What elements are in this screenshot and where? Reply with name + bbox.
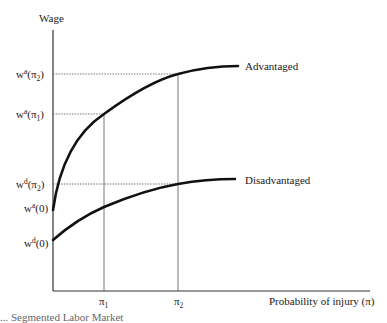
- y-tick-wa-0: wa(0): [24, 201, 48, 215]
- x-tick-pi1: π1: [99, 295, 109, 310]
- y-tick-wa-pi1: wa(π1): [16, 107, 44, 123]
- advantaged-curve: [53, 66, 238, 210]
- y-tick-wd-0: wd(0): [24, 236, 49, 250]
- y-tick-wd-pi2: wd(π2): [16, 177, 45, 193]
- advantaged-label: Advantaged: [245, 60, 299, 72]
- y-tick-wa-pi2: wa(π2): [16, 67, 44, 83]
- disadvantaged-curve: [53, 179, 235, 240]
- guide-lines: [53, 74, 178, 184]
- disadvantaged-label: Disadvantaged: [245, 174, 311, 186]
- figure-caption: ... Segmented Labor Market: [0, 311, 123, 323]
- x-tick-pi2: π2: [174, 295, 184, 310]
- y-axis-label: Wage: [39, 12, 64, 24]
- x-axis-label: Probability of injury (π): [269, 295, 375, 308]
